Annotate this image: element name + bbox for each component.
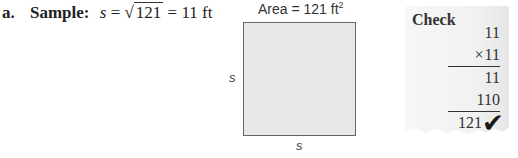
- times-icon: ×: [475, 46, 484, 63]
- square-figure: [243, 22, 356, 136]
- calc-value: 121: [458, 114, 482, 131]
- calc-row-partial-1: 11: [448, 67, 500, 89]
- radicand: 121: [134, 2, 164, 22]
- side-label-left: s: [229, 70, 236, 85]
- sample-line: a.Sample: s = √121 = 11 ft: [2, 3, 212, 23]
- calc-row-multiplier: ×11: [448, 44, 500, 67]
- calc-row-multiplicand: 11: [448, 22, 500, 44]
- variable-s: s: [100, 3, 107, 22]
- sample-title: Sample:: [30, 3, 90, 22]
- sample-equation: s = √121 = 11 ft: [100, 3, 213, 22]
- square-root: √121: [124, 3, 163, 23]
- calc-value: 110: [477, 91, 500, 108]
- area-exponent: 2: [339, 0, 344, 10]
- part-label: a.: [2, 3, 30, 23]
- result: 11 ft: [181, 3, 212, 22]
- radical-icon: √: [124, 3, 133, 22]
- equals-sign: =: [111, 3, 121, 22]
- calc-value: 11: [485, 24, 500, 41]
- checkmark-icon: ✔: [482, 108, 504, 138]
- area-label: Area = 121 ft2: [258, 0, 344, 17]
- equals-sign-2: =: [168, 3, 178, 22]
- calc-value: 11: [485, 46, 500, 63]
- side-label-bottom: s: [296, 138, 303, 153]
- calc-value: 11: [485, 69, 500, 86]
- area-text: Area = 121 ft: [258, 1, 339, 17]
